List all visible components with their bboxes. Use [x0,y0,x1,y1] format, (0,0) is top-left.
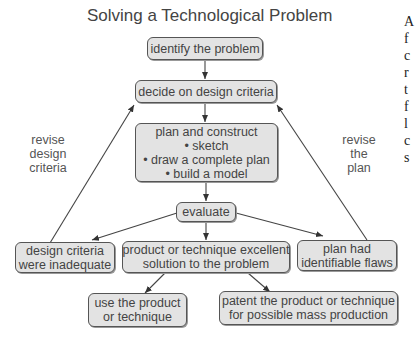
cropped-letter: f [404,30,414,47]
cropped-letter: r [404,64,414,81]
cropped-letter: l [404,115,414,132]
bullet-sketch: • sketch [185,139,229,153]
cropped-letter: t [404,81,414,98]
label-line: criteria [22,161,74,175]
node-heading: plan and construct [155,125,257,139]
node-plan-flaws: plan had identifiable flaws [297,240,397,271]
node-label: evaluate [182,205,229,219]
node-identify-problem: identify the problem [147,37,263,60]
label-line: revise [338,133,380,147]
node-line: identifiable flaws [301,256,393,270]
arrow-excellent-to-patent [248,273,270,292]
bullet-draw-plan: • draw a complete plan [143,153,270,167]
cropped-letter: A [404,13,414,30]
node-line: were inadequate [19,258,111,272]
node-line: or technique [103,310,172,324]
node-line: product or technique excellent [123,243,290,257]
arrow-evaluate-to-flaws [236,213,323,236]
node-line: solution to the problem [143,257,269,271]
edge-label-revise-criteria: revise design criteria [22,133,74,175]
node-line: use the product [94,296,180,310]
node-criteria-inadequate: design criteria were inadequate [15,242,115,273]
label-line: the [338,147,380,161]
label-line: design [22,147,74,161]
label-line: plan [338,161,380,175]
edge-label-revise-plan: revise the plan [338,133,380,175]
node-patent-product: patent the product or technique for poss… [219,291,398,325]
node-label: identify the problem [150,42,259,56]
node-label: decide on design criteria [138,85,274,99]
node-line: for possible mass production [229,308,388,322]
node-design-criteria: decide on design criteria [135,80,277,103]
cropped-body-text: A f c r t f l c s [404,13,414,166]
node-plan-and-construct: plan and construct • sketch • draw a com… [135,123,278,182]
node-use-product: use the product or technique [88,293,187,327]
node-line: plan had [323,242,371,256]
label-line: revise [22,133,74,147]
arrow-excellent-to-use [145,273,165,293]
cropped-letter: c [404,132,414,149]
node-line: design criteria [26,244,104,258]
cropped-letter: s [404,149,414,166]
bullet-build-model: • build a model [165,167,247,181]
node-evaluate: evaluate [176,202,236,222]
node-excellent-solution: product or technique excellent solution … [122,241,290,273]
arrow-evaluate-to-inadequate [92,213,177,240]
cropped-letter: c [404,47,414,64]
cropped-letter: f [404,98,414,115]
node-line: patent the product or technique [222,294,395,308]
